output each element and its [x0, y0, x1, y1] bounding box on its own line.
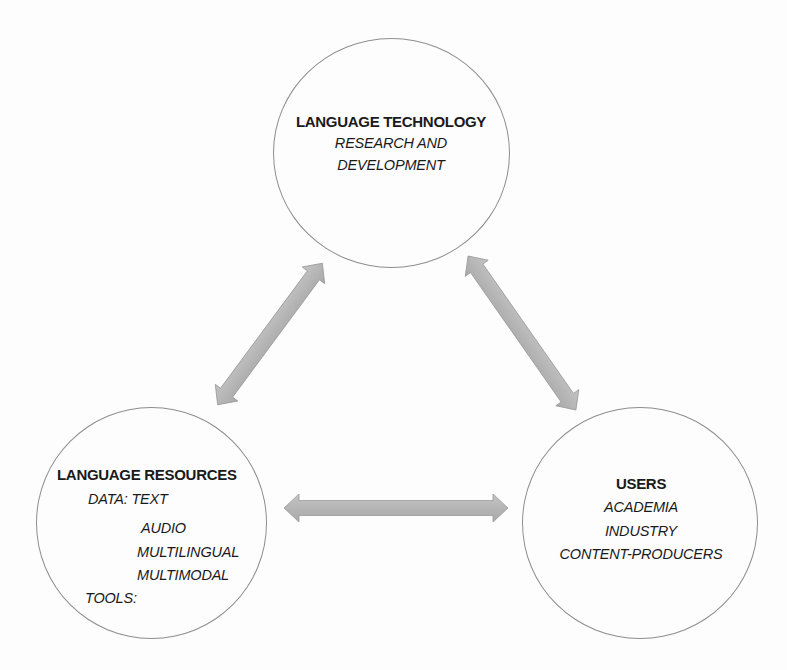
- arrow-technology-users: [457, 248, 588, 418]
- arrow-resources-technology: [206, 255, 333, 413]
- diagram-canvas: LANGUAGE TECHNOLOGY RESEARCH AND DEVELOP…: [0, 0, 787, 670]
- node-resources-title: LANGUAGE RESOURCES: [57, 467, 237, 482]
- node-users-title: USERS: [616, 476, 666, 491]
- node-resources-tools-label: TOOLS:: [85, 591, 137, 606]
- node-resources-data-item-audio: AUDIO: [141, 521, 186, 536]
- node-resources-data-item-multilingual: MULTILINGUAL: [137, 545, 239, 560]
- node-technology-line-2: DEVELOPMENT: [337, 158, 444, 173]
- node-users-line-2: INDUSTRY: [605, 524, 677, 539]
- node-users-line-3: CONTENT-PRODUCERS: [560, 547, 723, 562]
- node-resources-data-label: DATA: TEXT: [88, 492, 168, 507]
- node-technology-title: LANGUAGE TECHNOLOGY: [296, 114, 486, 129]
- node-users-line-1: ACADEMIA: [604, 500, 678, 515]
- arrow-resources-users: [284, 494, 508, 522]
- node-technology-line-1: RESEARCH AND: [335, 136, 447, 151]
- node-resources-data-item-multimodal: MULTIMODAL: [137, 568, 229, 583]
- node-language-technology: [273, 38, 510, 268]
